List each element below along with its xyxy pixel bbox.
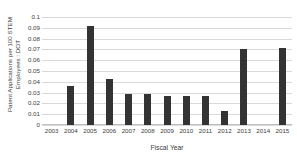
bar	[221, 111, 228, 125]
x-axis-title: Fiscal Year	[42, 144, 292, 152]
bar	[164, 96, 171, 125]
y-tick-label: 0.06	[22, 57, 40, 63]
y-tick-label: 0.09	[22, 25, 40, 31]
bar-slot	[80, 17, 99, 125]
x-tick-label: 2011	[196, 128, 215, 138]
x-tick-label: 2013	[234, 128, 253, 138]
bar	[202, 96, 209, 125]
bar-slot	[61, 17, 80, 125]
bar	[125, 94, 132, 125]
bar-slot	[273, 17, 292, 125]
x-tick-label: 2006	[100, 128, 119, 138]
y-tick-label: 0.01	[22, 111, 40, 117]
x-tick-label: 2012	[215, 128, 234, 138]
bar-chart-figure: Patent Applications per 100 STEM Employe…	[0, 0, 297, 163]
x-tick-label: 2010	[177, 128, 196, 138]
y-tick-label: 0.02	[22, 100, 40, 106]
y-tick-label: 0.07	[22, 46, 40, 52]
bar-slot	[234, 17, 253, 125]
bar-slot	[42, 17, 61, 125]
gridline	[42, 125, 292, 126]
bar	[183, 96, 190, 125]
bar	[279, 48, 286, 125]
bar-slot	[157, 17, 176, 125]
bar	[106, 79, 113, 125]
y-tick-label: 0.1	[22, 14, 40, 20]
y-axis-tick-labels: 00.010.020.030.040.050.060.070.080.090.1	[22, 17, 40, 125]
bar	[240, 49, 247, 125]
x-tick-label: 2008	[138, 128, 157, 138]
bars-series	[42, 17, 292, 125]
y-tick-label: 0	[22, 122, 40, 128]
x-tick-label: 2015	[273, 128, 292, 138]
y-axis-title-line-1: Patent Applications per 100 STEM	[5, 18, 13, 113]
x-tick-label: 2004	[61, 128, 80, 138]
bar-slot	[177, 17, 196, 125]
bar-slot	[196, 17, 215, 125]
bar	[87, 26, 94, 125]
bar	[67, 86, 74, 125]
x-tick-label: 2003	[42, 128, 61, 138]
bar-slot	[100, 17, 119, 125]
x-tick-label: 2007	[119, 128, 138, 138]
y-axis-title-line-2: Employees : DOT	[13, 18, 21, 113]
bar-slot	[119, 17, 138, 125]
y-tick-label: 0.08	[22, 35, 40, 41]
x-axis-tick-labels: 2003200420052006200720082009201020112012…	[42, 128, 292, 138]
plot-area	[42, 17, 292, 125]
y-tick-label: 0.05	[22, 68, 40, 74]
y-tick-label: 0.04	[22, 79, 40, 85]
y-tick-label: 0.03	[22, 89, 40, 95]
bar-slot	[254, 17, 273, 125]
bar-slot	[138, 17, 157, 125]
x-tick-label: 2005	[80, 128, 99, 138]
bar-slot	[215, 17, 234, 125]
x-tick-label: 2014	[254, 128, 273, 138]
x-tick-label: 2009	[157, 128, 176, 138]
bar	[144, 94, 151, 125]
